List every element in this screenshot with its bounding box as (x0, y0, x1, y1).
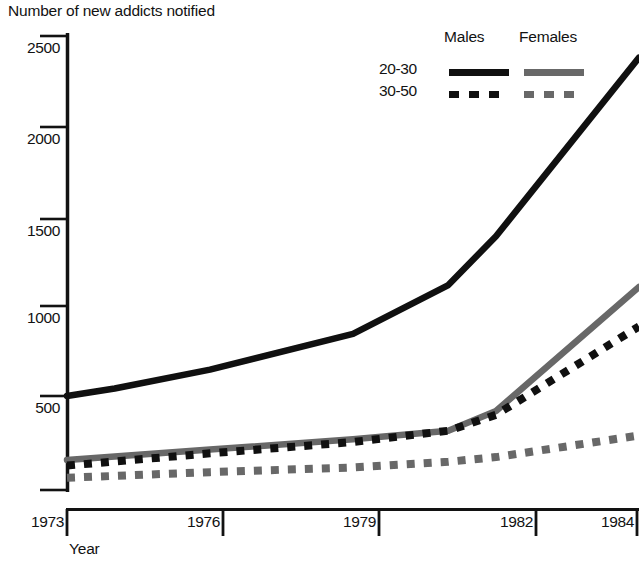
x-tick-label-1973: 1973 (4, 513, 64, 531)
y-tick-label-1000: 1000 (2, 309, 60, 327)
y-axis-ticks (40, 36, 67, 490)
legend-swatch-females-30-50 (524, 91, 574, 98)
data-series-layer (67, 58, 639, 478)
legend-swatch-males-30-50 (449, 91, 499, 98)
y-tick-label-1500: 1500 (2, 222, 60, 240)
x-tick-label-1979: 1979 (316, 513, 376, 531)
x-tick-label-1976: 1976 (160, 513, 220, 531)
legend-header-females: Females (519, 28, 577, 46)
x-axis-label: Year (69, 540, 100, 558)
y-tick-label-500: 500 (2, 399, 60, 417)
x-tick-label-1982: 1982 (473, 513, 533, 531)
chart-figure: Number of new addicts notified 2500 2000 (0, 0, 639, 574)
legend-row-label-30-50: 30-50 (379, 82, 417, 100)
legend-swatch-males-20-30 (449, 69, 509, 76)
legend-header-males: Males (444, 28, 484, 46)
series-line-males-30-50 (67, 326, 639, 465)
y-tick-label-2000: 2000 (2, 130, 60, 148)
legend-row-label-20-30: 20-30 (379, 60, 417, 78)
series-line-females-20-30 (67, 287, 639, 460)
plot-area (0, 0, 639, 574)
x-tick-label-1984: 1984 (574, 513, 634, 531)
series-line-males-20-30 (67, 58, 639, 396)
legend-swatch-females-20-30 (524, 69, 584, 76)
y-tick-label-2500: 2500 (2, 39, 60, 57)
